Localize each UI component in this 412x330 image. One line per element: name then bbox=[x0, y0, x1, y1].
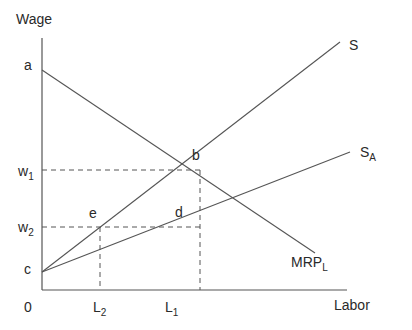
origin-label: 0 bbox=[24, 300, 32, 314]
y-tick-a: a bbox=[24, 58, 32, 72]
point-d-label: d bbox=[175, 205, 183, 219]
x-axis-label: Labor bbox=[334, 298, 370, 312]
y-axis-label: Wage bbox=[16, 12, 52, 26]
y-tick-c: c bbox=[24, 262, 31, 276]
x-tick-l1: L1 bbox=[165, 300, 178, 314]
supply-s-label: S bbox=[349, 38, 358, 52]
point-b-label: b bbox=[192, 148, 200, 162]
x-tick-l2: L2 bbox=[93, 300, 106, 314]
supply-line-s bbox=[42, 42, 340, 272]
mrp-line bbox=[42, 70, 315, 253]
y-tick-w2: w2 bbox=[18, 220, 34, 234]
point-e-label: e bbox=[89, 206, 97, 220]
supply-sa-label: SA bbox=[360, 145, 376, 159]
mrp-label: MRPL bbox=[291, 255, 328, 269]
y-tick-w1: w1 bbox=[18, 164, 34, 178]
